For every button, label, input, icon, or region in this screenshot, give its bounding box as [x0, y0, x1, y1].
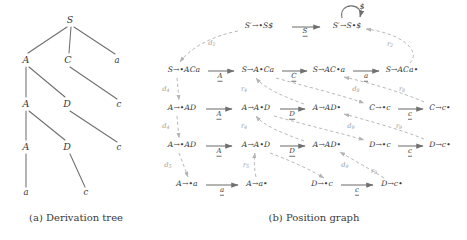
- tree-node-D1: D: [63, 99, 71, 109]
- position-graph-edges: [152, 0, 467, 240]
- item-n1: S′→•S$: [245, 22, 273, 30]
- derivation-label-d2-sub: 2: [213, 42, 216, 47]
- item-n20: D→c•: [381, 180, 403, 188]
- reduction-label-r4b: r4: [241, 123, 247, 131]
- shift-label-A2: A: [216, 111, 221, 120]
- shift-label-c1: c: [408, 111, 412, 120]
- tree-node-a2: a: [23, 188, 28, 197]
- reduction-label-r9b: r9: [371, 168, 377, 176]
- reduction-label-r4: r4: [241, 86, 247, 94]
- item-n11: C→c•: [429, 104, 450, 112]
- tree-edge-A2-D2: [29, 111, 65, 140]
- item-n10: C→•c: [369, 104, 390, 112]
- shift-label-D1: D: [289, 111, 295, 120]
- tree-node-A2: A: [23, 99, 30, 109]
- tree-node-A1: A: [23, 55, 30, 65]
- item-n7: A→•AD: [168, 104, 196, 112]
- shift-label-c3: c: [355, 187, 359, 196]
- reduction-edge-r4b: [256, 116, 304, 141]
- derivation-edge-d9b: [270, 153, 324, 178]
- tree-edge-S-A: [28, 27, 67, 53]
- item-n16: D→c•: [429, 141, 451, 149]
- derivation-label-d4b-sub: 4: [167, 125, 170, 130]
- shift-label-C: C: [291, 73, 296, 82]
- derivation-label-d2: d2: [208, 40, 215, 48]
- caption-derivation-tree: (a) Derivation tree: [29, 212, 123, 223]
- reduction-label-r8-sub: 8: [402, 88, 405, 93]
- tree-node-D2: D: [63, 142, 71, 152]
- reduction-edge-r5: [254, 153, 256, 177]
- derivation-label-d9-sub: 9: [352, 125, 355, 130]
- position-graph-panel: S′→•S$ S′→S•$ S→•ACa S→A•Ca S→AC•a S→ACa…: [152, 0, 467, 240]
- reduction-label-r9-sub: 9: [399, 125, 402, 130]
- derivation-label-d4-sub: 4: [167, 88, 170, 93]
- item-n12: A→•AD: [168, 141, 196, 149]
- reduction-edge-r9: [344, 114, 424, 139]
- item-n14: A→AD•: [313, 141, 341, 149]
- item-n3: S→•ACa: [168, 66, 200, 74]
- derivation-tree-panel: S A C a A D c A D c a c (a) Derivation t…: [0, 0, 152, 240]
- tree-edge-D1-c2: [70, 111, 117, 142]
- item-n13: A→A•D: [242, 141, 270, 149]
- item-n4: S→A•Ca: [242, 66, 274, 74]
- item-n8: A→A•D: [242, 104, 270, 112]
- reduction-label-r8: r8: [399, 86, 405, 94]
- tree-node-c2: c: [117, 143, 122, 152]
- reduction-edge-r4: [256, 78, 304, 104]
- derivation-label-d8-sub: 8: [357, 88, 360, 93]
- derivation-label-d9: d9: [347, 123, 354, 131]
- tree-node-S: S: [67, 15, 74, 25]
- tree-edge-S-C: [69, 27, 71, 53]
- tree-edge-A1-D1: [29, 67, 65, 97]
- shift-label-c2: c: [408, 148, 412, 157]
- tree-node-a1: a: [114, 56, 119, 65]
- reduction-label-r4b-sub: 4: [244, 125, 247, 130]
- shift-label-D2: D: [289, 148, 295, 157]
- shift-label-dollar: $: [359, 3, 364, 11]
- derivation-label-d5-sub: 5: [169, 164, 172, 169]
- self-loop-dollar: [342, 6, 361, 18]
- shift-label-a2: a: [220, 187, 224, 196]
- tree-node-C1: C: [64, 55, 71, 65]
- reduction-label-r2-sub: 2: [390, 43, 393, 48]
- figure-root: S A C a A D c A D c a c (a) Derivation t…: [0, 0, 467, 240]
- item-n9: A→AD•: [313, 104, 341, 112]
- tree-edge-S-a: [74, 27, 115, 54]
- derivation-tree-edges: [0, 0, 152, 240]
- shift-label-A3: A: [216, 148, 221, 157]
- shift-label-a1: a: [364, 73, 368, 82]
- caption-position-graph: (b) Position graph: [269, 212, 360, 223]
- tree-node-c1: c: [117, 100, 122, 109]
- item-n6: S→ACa•: [386, 66, 418, 74]
- derivation-label-d4b: d4: [162, 123, 169, 131]
- reduction-label-r9b-sub: 9: [374, 170, 377, 175]
- item-n18: A→a•: [246, 180, 267, 188]
- derivation-edge-d5: [179, 153, 188, 177]
- item-n2: S′→S•$: [333, 22, 361, 30]
- derivation-label-d9b: d9: [341, 162, 348, 170]
- derivation-edge-d4b: [177, 116, 179, 138]
- item-n19: D→•c: [311, 180, 333, 188]
- reduction-label-r5-sub: 5: [246, 164, 249, 169]
- derivation-label-d5: d5: [164, 162, 171, 170]
- derivation-edge-d8: [276, 78, 364, 103]
- reduction-label-r4-sub: 4: [244, 88, 247, 93]
- derivation-label-d8: d8: [352, 86, 359, 94]
- shift-label-A1: A: [217, 73, 222, 82]
- tree-node-c3: c: [84, 188, 89, 197]
- item-n17: A→•a: [176, 180, 197, 188]
- derivation-label-d9b-sub: 9: [346, 164, 349, 169]
- derivation-edge-d4: [177, 78, 179, 100]
- tree-node-A3: A: [23, 142, 30, 152]
- reduction-label-r5: r5: [243, 162, 249, 170]
- tree-edge-C1-c1: [70, 67, 117, 99]
- derivation-label-d4: d4: [162, 86, 169, 94]
- tree-edge-D2-c3: [70, 154, 85, 187]
- item-n5: S→AC•a: [313, 66, 345, 74]
- shift-label-S: S: [303, 28, 308, 37]
- reduction-label-r2: r2: [387, 41, 393, 49]
- item-n15: D→•c: [369, 141, 391, 149]
- reduction-label-r9: r9: [396, 123, 402, 131]
